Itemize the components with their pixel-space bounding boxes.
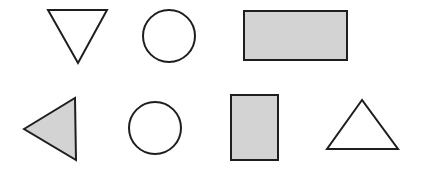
outline-circle (129, 102, 181, 154)
shaded-rectangle (231, 95, 278, 160)
shapes-diagram (0, 0, 421, 170)
shaded-rectangle (244, 11, 347, 60)
outline-circle (143, 10, 195, 62)
